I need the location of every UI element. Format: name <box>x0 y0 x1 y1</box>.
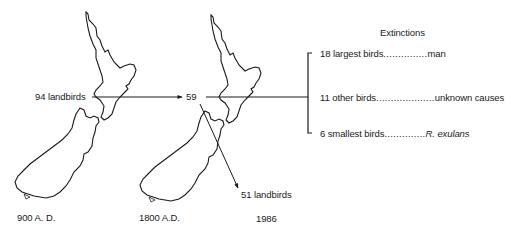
mid-count-label: 59 <box>186 92 196 102</box>
arrow-59-to-51 <box>200 104 238 188</box>
leader-dots: .................... <box>376 92 435 103</box>
extinction-row: 6 smallest birds..............R. exulans <box>320 129 469 139</box>
date-label-1986: 1986 <box>256 214 277 224</box>
leader-dots: ............... <box>383 48 427 59</box>
map-900ad <box>15 12 136 199</box>
extinction-count: 18 largest birds <box>320 48 383 59</box>
extinction-count: 6 smallest birds <box>320 128 384 139</box>
extinctions-title: Extinctions <box>380 28 425 38</box>
extinction-cause: man <box>427 48 445 59</box>
extinction-row: 11 other birds....................unknow… <box>320 93 504 103</box>
extinctions-bracket <box>308 53 312 133</box>
end-count-label: 51 landbirds <box>241 190 292 200</box>
date-label-900ad: 900 A. D. <box>17 213 55 223</box>
extinction-count: 11 other birds <box>320 92 376 103</box>
map-1800ad <box>140 15 261 202</box>
start-count-label: 94 landbirds <box>35 92 86 102</box>
extinction-row: 18 largest birds...............man <box>320 49 446 59</box>
leader-dots: .............. <box>384 128 425 139</box>
date-label-1800ad: 1800 A.D. <box>139 213 180 223</box>
extinction-cause: unknown causes <box>435 92 504 103</box>
extinction-cause: R. exulans <box>426 128 470 139</box>
